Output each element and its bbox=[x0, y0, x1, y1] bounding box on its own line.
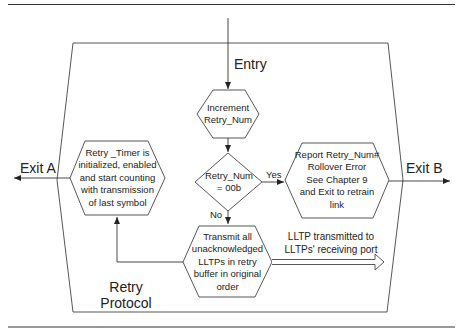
timer-node: Retry _Timer is initialized, enabled and… bbox=[70, 147, 165, 209]
timer-line-4: with transmission bbox=[70, 184, 165, 196]
output-label-line-2: LLTPs' receiving port bbox=[279, 244, 383, 257]
output-label: LLTP transmitted to LLTPs' receiving por… bbox=[279, 231, 383, 256]
title-line-2: Protocol bbox=[94, 295, 158, 311]
timer-line-5: of last symbol bbox=[70, 197, 165, 209]
report-line-4: and Exit to retrain bbox=[287, 186, 387, 198]
report-line-5: link bbox=[287, 199, 387, 211]
yes-label: Yes bbox=[266, 169, 282, 180]
transmit-to-timer-arrow bbox=[117, 217, 183, 262]
exit-b-label: Exit B bbox=[406, 160, 443, 176]
report-line-2: Rollover Error bbox=[287, 161, 387, 173]
increment-node: Increment Retry_Num bbox=[197, 102, 259, 127]
decision-node: Retry_Num = 00b bbox=[196, 170, 262, 195]
title-line-1: Retry bbox=[94, 279, 158, 295]
transmit-line-5: order bbox=[183, 281, 272, 293]
report-line-1: Report Retry_Num# bbox=[287, 149, 387, 161]
transmit-node: Transmit all unacknowledged LLTPs in ret… bbox=[183, 231, 272, 293]
transmit-line-1: Transmit all bbox=[183, 231, 272, 243]
report-line-3: See Chapter 9 bbox=[287, 174, 387, 186]
timer-line-3: and start counting bbox=[70, 172, 165, 184]
no-label: No bbox=[210, 209, 222, 220]
decision-line-2: = 00b bbox=[196, 182, 262, 194]
increment-line-2: Retry_Num bbox=[197, 114, 259, 126]
transmit-line-4: buffer in original bbox=[183, 268, 272, 280]
retry-protocol-title: Retry Protocol bbox=[94, 279, 158, 311]
timer-line-2: initialized, enabled bbox=[70, 159, 165, 171]
entry-label: Entry bbox=[234, 56, 267, 72]
timer-line-1: Retry _Timer is bbox=[70, 147, 165, 159]
exit-a-label: Exit A bbox=[20, 160, 56, 176]
report-node: Report Retry_Num# Rollover Error See Cha… bbox=[287, 149, 387, 211]
increment-line-1: Increment bbox=[197, 102, 259, 114]
decision-line-1: Retry_Num bbox=[196, 170, 262, 182]
transmit-line-2: unacknowledged bbox=[183, 243, 272, 255]
transmit-line-3: LLTPs in retry bbox=[183, 256, 272, 268]
output-double-arrow bbox=[272, 254, 384, 270]
output-label-line-1: LLTP transmitted to bbox=[279, 231, 383, 244]
